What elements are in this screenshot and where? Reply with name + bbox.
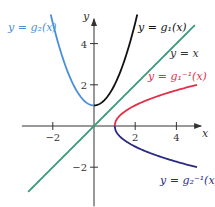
chart: −224−224 x y y = g₂(x) y = g₁(x) y = x y… [0,0,215,207]
y-tick-label: −2 [72,162,87,173]
x-axis-label: x [202,127,209,140]
y-tick-label: 2 [81,80,87,91]
legend-g1-inverse: y = g₁⁻¹(x) [147,70,207,83]
legend-g1: y = g₁(x) [137,21,187,34]
curve-g2-inverse [115,126,197,167]
x-tick-label: −2 [45,132,60,143]
curve-g2 [51,15,94,106]
chart-svg: −224−224 x y y = g₂(x) y = g₁(x) y = x y… [0,0,215,207]
curve-g1-inverse [115,85,197,126]
y-axis-label: y [82,10,90,23]
legend-g2-inverse: y = g₂⁻¹(x) [159,174,215,187]
legend-g2: y = g₂(x) [7,21,57,34]
x-tick-label: 2 [132,132,138,143]
y-tick-label: 4 [81,39,87,50]
x-tick-label: 4 [173,132,179,143]
curve-g1 [94,15,137,106]
legend-identity: y = x [169,47,199,60]
